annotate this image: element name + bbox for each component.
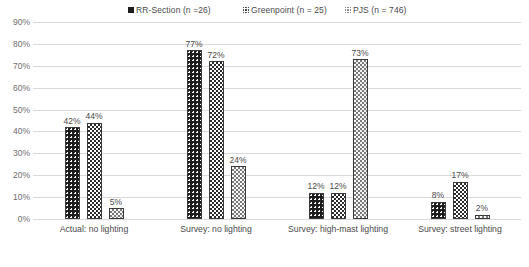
plot-area: 42%44%5%77%72%24%12%12%73%8%17%2% xyxy=(33,22,521,220)
bar-group: 12%12%73% xyxy=(277,22,399,220)
bar-fill xyxy=(431,202,446,220)
legend-swatch-icon xyxy=(243,7,249,13)
x-axis-category-label: Survey: street lighting xyxy=(399,224,521,234)
legend-swatch-icon xyxy=(345,7,351,13)
bar-chart: RR-Section (n =26) Greenpoint (n = 25) P… xyxy=(0,0,529,267)
bar-fill xyxy=(353,59,368,219)
bar: 24% xyxy=(231,166,246,219)
bar: 73% xyxy=(353,59,368,219)
y-axis-tick-label: 80% xyxy=(2,40,30,49)
y-axis-tick-label: 70% xyxy=(2,62,30,71)
y-axis-tick-label: 50% xyxy=(2,106,30,115)
legend-label: PJS (n = 746) xyxy=(353,5,407,15)
x-axis-category-label: Actual: no lighting xyxy=(33,224,155,234)
bar-value-label: 77% xyxy=(185,40,202,49)
bar-fill xyxy=(231,166,246,219)
bar-fill xyxy=(309,193,324,219)
bar-fill xyxy=(187,50,202,219)
bar-value-label: 12% xyxy=(307,182,324,191)
bar: 17% xyxy=(453,182,468,219)
bar-group: 77%72%24% xyxy=(155,22,277,220)
x-axis-category-label: Survey: high-mast lighting xyxy=(277,224,399,234)
bar-group: 8%17%2% xyxy=(399,22,521,220)
y-axis-tick-label: 90% xyxy=(2,18,30,27)
bar: 5% xyxy=(109,208,124,219)
bar: 44% xyxy=(87,123,102,219)
bar-value-label: 42% xyxy=(63,117,80,126)
bar-value-label: 44% xyxy=(85,112,102,121)
bar-fill xyxy=(475,215,490,219)
y-axis-tick-label: 60% xyxy=(2,84,30,93)
legend-label: Greenpoint (n = 25) xyxy=(251,5,327,15)
legend-item-rr-section: RR-Section (n =26) xyxy=(128,2,211,18)
legend-item-pjs: PJS (n = 746) xyxy=(345,2,407,18)
bar-value-label: 8% xyxy=(432,191,444,200)
bar-value-label: 24% xyxy=(229,156,246,165)
bar-value-label: 73% xyxy=(351,49,368,58)
chart-legend: RR-Section (n =26) Greenpoint (n = 25) P… xyxy=(0,2,529,18)
bar-value-label: 2% xyxy=(476,204,488,213)
bar-value-label: 12% xyxy=(329,182,346,191)
x-axis-labels: Actual: no lightingSurvey: no lightingSu… xyxy=(33,224,521,244)
bar: 12% xyxy=(331,193,346,219)
bar: 42% xyxy=(65,127,80,219)
legend-swatch-icon xyxy=(128,7,134,13)
bar: 77% xyxy=(187,50,202,219)
bar-fill xyxy=(453,182,468,219)
bar-value-label: 5% xyxy=(110,198,122,207)
legend-label: RR-Section (n =26) xyxy=(136,5,211,15)
bar-fill xyxy=(109,208,124,219)
x-axis-category-label: Survey: no lighting xyxy=(155,224,277,234)
bar-fill xyxy=(209,61,224,219)
bar: 72% xyxy=(209,61,224,219)
bar-fill xyxy=(331,193,346,219)
bar: 8% xyxy=(431,202,446,220)
y-axis-tick-label: 20% xyxy=(2,171,30,180)
bar-value-label: 17% xyxy=(451,171,468,180)
legend-item-greenpoint: Greenpoint (n = 25) xyxy=(243,2,327,18)
y-axis-tick-label: 10% xyxy=(2,193,30,202)
bar-value-label: 72% xyxy=(207,51,224,60)
y-axis-tick-label: 0% xyxy=(2,215,30,224)
y-axis: 90%80%70%60%50%40%30%20%10%0% xyxy=(0,22,30,220)
bar-fill xyxy=(87,123,102,219)
bar-group: 42%44%5% xyxy=(33,22,155,220)
y-axis-tick-label: 30% xyxy=(2,149,30,158)
bar: 2% xyxy=(475,215,490,219)
bar: 12% xyxy=(309,193,324,219)
y-axis-tick-label: 40% xyxy=(2,127,30,136)
bar-fill xyxy=(65,127,80,219)
